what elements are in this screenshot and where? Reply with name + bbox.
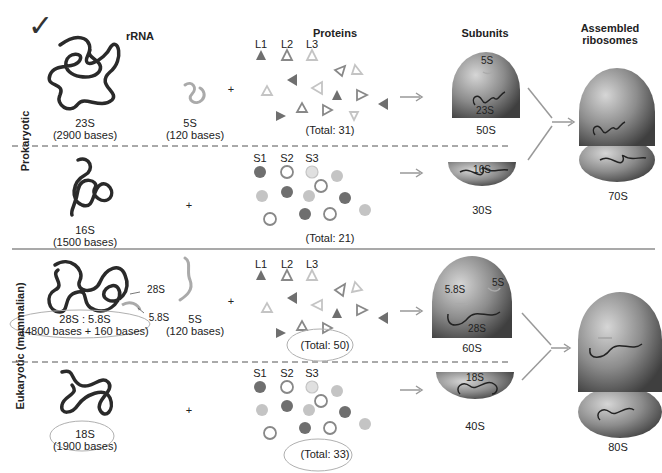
rrna-28s-58s-size: (4800 bases + 160 bases) [15, 325, 155, 337]
rrna-28s-shape [49, 262, 127, 312]
header-rrna: rRNA [105, 30, 175, 42]
protein-circles-prok-small [254, 166, 371, 225]
protein-label: S3 [305, 152, 319, 164]
ribosome-name-80s: 80S [598, 441, 638, 453]
ribosome-80s-large [578, 292, 662, 392]
rrna-5s-euk-shape [180, 258, 191, 300]
rrna-23s-name: 23S [50, 117, 120, 129]
protein-total: (Total: 50) [285, 339, 365, 351]
subunit-label-5s: 5S [483, 277, 513, 289]
rrna-23s-shape [49, 38, 119, 109]
assembly-arrow-euk [522, 313, 570, 380]
checkmark-icon: ✓ [28, 8, 53, 43]
plus-sign: + [183, 199, 195, 211]
subunit-name-50s: 50S [466, 124, 506, 136]
rrna-58s-shape [122, 303, 140, 310]
protein-label: L1 [254, 38, 268, 50]
protein-label: S1 [253, 367, 267, 379]
header-proteins: Proteins [290, 27, 380, 39]
plus-sign: + [183, 404, 195, 416]
protein-label: S2 [280, 367, 294, 379]
rrna-18s-size: (1900 bases) [40, 440, 130, 452]
subunit-name-60s: 60S [452, 342, 492, 354]
rrna-callout-28s: 28S [142, 284, 170, 296]
protein-label: L3 [305, 38, 319, 50]
arrow-icons [400, 93, 422, 394]
protein-triangles-euk-large [256, 270, 388, 338]
rrna-callout-58s: 5.8S [145, 312, 173, 324]
plus-sign: + [225, 83, 237, 95]
rrna-18s-name: 18S [60, 428, 110, 440]
ribosome-70s-large [579, 68, 655, 146]
subunit-label-58s: 5.8S [440, 284, 470, 296]
protein-label: S3 [305, 367, 319, 379]
section-label-eukaryotic: Eukaryotic (mammalian) [14, 266, 26, 426]
rrna-5s-shape [185, 83, 204, 102]
protein-label: L3 [305, 258, 319, 270]
rrna-23s-size: (2900 bases) [40, 129, 130, 141]
protein-total: (Total: 33) [285, 448, 365, 460]
protein-label: L1 [254, 258, 268, 270]
rrna-5s-euk-name: 5S [175, 313, 215, 325]
protein-total: (Total: 31) [290, 124, 370, 136]
rrna-5s-euk-size: (120 bases) [160, 325, 230, 337]
subunit-label-16s: 16S [467, 164, 497, 176]
protein-label: S1 [253, 152, 267, 164]
assembly-arrow-prok [528, 88, 574, 160]
header-assembled: Assembled ribosomes [565, 22, 655, 46]
rrna-16s-name: 16S [60, 224, 110, 236]
subunit-name-40s: 40S [455, 420, 495, 432]
rrna-18s-shape [62, 371, 112, 414]
protein-label: L2 [280, 258, 294, 270]
header-subunits: Subunits [440, 27, 530, 39]
protein-label: L2 [280, 38, 294, 50]
rrna-28s-58s-name: 28S : 5.8S [50, 313, 120, 325]
rrna-5s-name: 5S [170, 117, 210, 129]
protein-triangles-prok-large [256, 50, 388, 121]
plus-sign: + [225, 295, 237, 307]
protein-label: S2 [280, 152, 294, 164]
ribosome-name-70s: 70S [598, 190, 638, 202]
rrna-16s-size: (1500 bases) [40, 236, 130, 248]
rrna-16s-shape [72, 159, 112, 215]
subunit-label-18s: 18S [460, 372, 490, 384]
subunit-label-5s: 5S [472, 55, 502, 67]
protein-total: (Total: 21) [290, 232, 370, 244]
rrna-5s-size: (120 bases) [160, 129, 230, 141]
section-label-prokaryotic: Prokaryotic [19, 96, 31, 186]
protein-circles-euk-small [254, 381, 371, 439]
subunit-label-28s: 28S [462, 323, 492, 335]
subunit-label-23s: 23S [470, 105, 500, 117]
subunit-name-30s: 30S [462, 204, 502, 216]
